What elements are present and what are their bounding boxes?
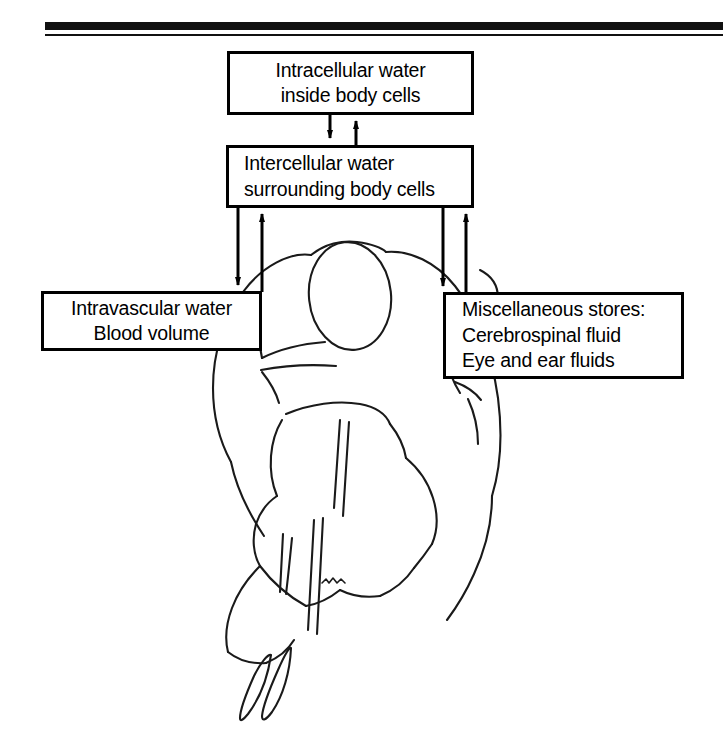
figure-page: Intracellular water inside body cells In… [0,0,723,741]
cyclist-upper-back [311,242,386,255]
cyclist-leg-right [262,648,291,720]
cyclist-torso-crease-2 [262,372,279,403]
cyclist-leg-left [240,655,271,720]
shorts-crease-3 [414,544,432,568]
handlebar-right-hood [390,424,406,458]
box-intercellular-water: Intercellular water surrounding body cel… [226,145,474,208]
box-intracellular-line1: Intracellular water [275,58,425,83]
wheel-front-edge [228,652,266,663]
handlebar-left-stem [271,420,282,496]
frame-top-tube [260,566,306,606]
cyclist-hem-right [447,496,492,620]
handlebar-stem [334,420,340,508]
cyclist-head [304,238,397,354]
frame-seat-tube-2 [317,518,323,634]
box-misc-line2: Cerebrospinal fluid [462,323,621,348]
shorts-crease-2 [380,568,414,596]
artist-signature-mark [322,578,345,583]
handlebar-left-drop [254,496,277,566]
handlebar-right-drop [406,458,437,544]
fork-left [226,566,260,652]
box-intravascular-line1: Intravascular water [71,296,232,321]
frame-down-tube [266,640,294,663]
cyclist-hem-left [231,462,264,536]
box-intracellular-water: Intracellular water inside body cells [227,51,474,115]
frame-junction [306,590,340,606]
cyclist-left-shoulder [213,255,311,462]
shorts-crease-1 [340,590,380,597]
cyclist-torso-crease-4 [455,382,481,400]
box-misc-line1: Miscellaneous stores: [462,297,645,322]
box-misc-line3: Eye and ear fluids [462,348,615,373]
box-miscellaneous-stores: Miscellaneous stores: Cerebrospinal flui… [443,292,684,379]
cyclist-torso-crease-5 [468,399,478,444]
shorts-highlight-1 [286,538,292,594]
box-intercellular-line2: surrounding body cells [244,177,435,202]
shorts-highlight-2 [280,534,283,592]
top-rule-thin [45,34,723,36]
handlebar-top-bar [286,402,390,424]
cyclist-left-arm-fold [262,342,325,358]
cyclist-torso-crease-1 [261,365,336,370]
handlebar-stem-2 [343,422,349,516]
box-intravascular-water: Intravascular water Blood volume [41,291,262,351]
box-intercellular-line1: Intercellular water [244,151,394,176]
box-intravascular-line2: Blood volume [94,321,210,346]
box-intracellular-line2: inside body cells [281,83,421,108]
top-rule-thick [45,22,723,30]
frame-seat-tube [308,520,314,630]
